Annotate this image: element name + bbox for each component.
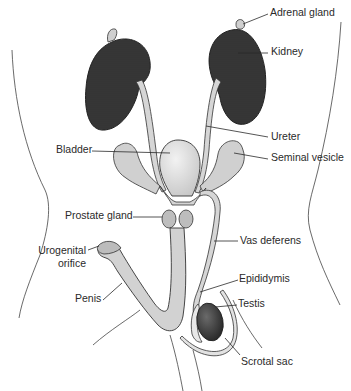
body-outline: [12, 22, 341, 391]
bladder: [160, 140, 200, 196]
kidney-right: [209, 30, 266, 125]
label-vas-deferens: Vas deferens: [240, 235, 301, 247]
label-adrenal-gland: Adrenal gland: [270, 7, 335, 19]
prostate-gland-left: [162, 210, 176, 228]
leader-ureter: [206, 126, 268, 137]
label-prostate-gland: Prostate gland: [65, 210, 133, 222]
thigh-line-center-left: [170, 335, 183, 391]
label-bladder: Bladder: [56, 144, 92, 156]
leader-penis: [103, 283, 122, 300]
thigh-line-left: [93, 310, 140, 345]
label-scrotal-sac: Scrotal sac: [241, 356, 293, 368]
label-kidney: Kidney: [271, 46, 303, 58]
body-outline-left: [12, 50, 49, 318]
label-urogenital-orifice-line1: Urogenital: [38, 245, 86, 257]
label-epididymis: Epididymis: [239, 273, 290, 285]
adrenal-gland-right: [236, 20, 245, 30]
leader-adrenal-gland: [243, 14, 268, 24]
thigh-line-center-right: [193, 350, 202, 391]
label-urogenital-orifice-line2: orifice: [38, 258, 86, 270]
label-testis: Testis: [238, 298, 265, 310]
prostate-gland-right: [179, 210, 193, 228]
vas-deferens: [193, 190, 220, 320]
leader-epididymis: [200, 280, 238, 292]
leader-testis: [215, 305, 237, 307]
urogenital-diagram: [0, 0, 351, 391]
label-ureter: Ureter: [271, 131, 300, 143]
label-seminal-vesicle: Seminal vesicle: [271, 152, 344, 164]
label-penis: Penis: [75, 293, 101, 305]
